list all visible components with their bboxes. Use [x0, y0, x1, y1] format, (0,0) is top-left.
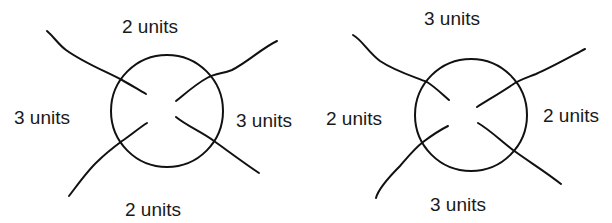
- curve-bottom-left: [376, 126, 448, 198]
- diagram-left: 2 units 3 units 3 units 2 units: [14, 16, 292, 220]
- label-left-left: 3 units: [14, 107, 70, 128]
- label-right-right: 2 units: [543, 105, 599, 126]
- diagram-right: 3 units 2 units 2 units 3 units: [326, 8, 599, 215]
- label-right-top: 3 units: [424, 8, 480, 29]
- label-right-bottom: 3 units: [430, 194, 486, 215]
- circle-right: [415, 59, 527, 171]
- curve-top-left: [353, 35, 449, 100]
- curve-top-right: [477, 49, 585, 107]
- label-right-left: 2 units: [326, 108, 382, 129]
- curve-bottom-right: [478, 123, 561, 184]
- two-circle-diagrams: 2 units 3 units 3 units 2 units 3 units …: [0, 0, 612, 223]
- curve-bottom-left: [69, 123, 147, 196]
- label-left-top: 2 units: [122, 16, 178, 37]
- label-left-right: 3 units: [236, 110, 292, 131]
- curve-top-left: [47, 31, 146, 94]
- curve-top-right: [176, 41, 277, 101]
- label-left-bottom: 2 units: [125, 199, 181, 220]
- circle-left: [111, 55, 223, 167]
